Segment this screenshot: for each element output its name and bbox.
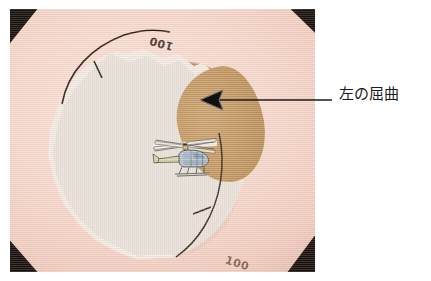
figure-root: 100 100 [0,0,431,281]
annotation-caption: 左の屈曲 [339,87,399,102]
helicopter-sticker [151,129,219,179]
photograph-plate: 100 100 [10,9,315,272]
